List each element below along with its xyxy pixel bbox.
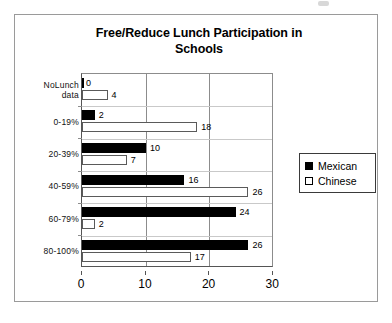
legend-entry-mexican: Mexican: [305, 158, 370, 173]
chart-frame: Free/Reduce Lunch Participation in Schoo…: [14, 14, 378, 302]
bar-group-20-39: 10 7: [82, 139, 272, 171]
bar-mexican-0-19: [82, 110, 95, 120]
bar-group-40-59: 16 26: [82, 171, 272, 203]
x-tick-label-20: 20: [202, 277, 215, 291]
plot-area: 0 4 2 18 10 7 16 26: [81, 73, 273, 267]
bar-value-mexican-20-39: 10: [150, 143, 160, 153]
bar-mexican-60-79: [82, 207, 236, 217]
x-tick-label-10: 10: [138, 277, 151, 291]
x-tick-label-30: 30: [266, 277, 279, 291]
bar-mexican-40-59: [82, 175, 184, 185]
bar-value-chinese-80-100: 17: [195, 252, 205, 262]
bar-value-chinese-20-39: 7: [131, 155, 136, 165]
bar-mexican-20-39: [82, 143, 146, 153]
bar-value-chinese-60-79: 2: [99, 219, 104, 229]
bar-chinese-60-79: [82, 219, 95, 229]
bar-group-nolunch-data: 0 4: [82, 74, 272, 106]
y-axis-label-20-39: 20-39%: [15, 149, 79, 159]
x-tick-mark-0: [81, 271, 82, 275]
bar-chinese-nolunch-data: [82, 90, 108, 100]
category-separator: [82, 106, 272, 107]
bar-chinese-40-59: [82, 187, 248, 197]
legend-entry-chinese: Chinese: [305, 173, 370, 188]
bar-mexican-80-100: [82, 240, 248, 250]
x-tick-mark-20: [208, 271, 209, 275]
bar-chinese-80-100: [82, 252, 191, 262]
empty-square-icon: [305, 177, 313, 185]
y-axis-label-line-1: NoLunch: [15, 80, 79, 90]
bar-value-chinese-nolunch-data: 4: [112, 90, 117, 100]
category-separator: [82, 203, 272, 204]
y-axis-label-0-19: 0-19%: [15, 117, 79, 127]
bar-group-60-79: 24 2: [82, 203, 272, 235]
chart-title: Free/Reduce Lunch Participation in Schoo…: [49, 25, 349, 57]
chart-legend: Mexican Chinese: [299, 153, 376, 193]
bar-value-mexican-80-100: 26: [252, 240, 262, 250]
bar-chinese-0-19: [82, 122, 197, 132]
bar-value-chinese-40-59: 26: [252, 187, 262, 197]
x-tick-label-0: 0: [78, 277, 85, 291]
bar-value-mexican-60-79: 24: [240, 207, 250, 217]
bar-group-80-100: 26 17: [82, 236, 272, 268]
chart-title-line-2: Schools: [49, 41, 349, 57]
legend-label-chinese: Chinese: [318, 175, 357, 187]
legend-label-mexican: Mexican: [318, 160, 357, 172]
bar-value-mexican-0-19: 2: [99, 110, 104, 120]
bar-value-mexican-40-59: 16: [188, 175, 198, 185]
filled-square-icon: [305, 162, 313, 170]
category-separator: [82, 171, 272, 172]
y-axis-label-line-2: data: [15, 90, 79, 100]
x-axis: 0 10 20 30: [81, 271, 273, 291]
y-axis-labels: NoLunch data 0-19% 20-39% 40-59% 60-79% …: [15, 73, 79, 267]
y-axis-label-60-79: 60-79%: [15, 214, 79, 224]
y-axis-label-40-59: 40-59%: [15, 181, 79, 191]
bar-value-chinese-0-19: 18: [201, 122, 211, 132]
chart-title-line-1: Free/Reduce Lunch Participation in: [49, 25, 349, 41]
scan-artifact-speck: [318, 1, 329, 6]
category-separator: [82, 236, 272, 237]
bar-mexican-nolunch-data: [82, 78, 84, 88]
bar-value-mexican-nolunch-data: 0: [86, 78, 91, 88]
x-tick-mark-10: [145, 271, 146, 275]
bar-group-0-19: 2 18: [82, 106, 272, 138]
x-tick-mark-30: [272, 271, 273, 275]
category-separator: [82, 139, 272, 140]
y-axis-label-80-100: 80-100%: [15, 246, 79, 256]
bar-chinese-20-39: [82, 155, 127, 165]
y-axis-label-nolunch-data: NoLunch data: [15, 80, 79, 100]
